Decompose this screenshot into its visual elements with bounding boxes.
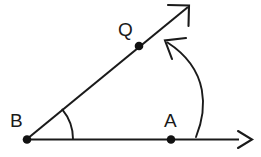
point-dot-q [135,42,144,51]
label-vertex-b: B [10,110,23,131]
angle-arc-abq [62,110,73,139]
label-point-a: A [164,110,177,131]
ray-ba-arrowhead-icon [238,131,252,148]
vertex-dot-b [23,135,32,144]
label-point-q: Q [118,19,133,40]
geometry-diagram: B A Q [0,0,261,157]
geometry-canvas: B A Q [0,0,261,157]
point-dot-a [167,135,176,144]
